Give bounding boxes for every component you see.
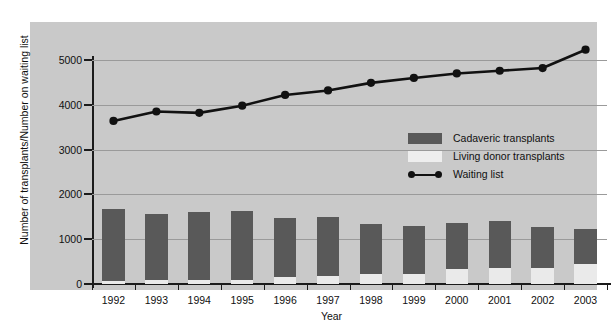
x-tick xyxy=(478,283,479,290)
waiting-list-point-1997 xyxy=(324,86,332,94)
y-tick xyxy=(84,283,92,285)
waiting-list-point-1993 xyxy=(152,107,160,115)
chart-legend: Cadaveric transplants Living donor trans… xyxy=(408,130,565,184)
x-tick-label-2000: 2000 xyxy=(445,294,468,306)
y-tick-label: 2000 xyxy=(59,188,82,200)
x-tick-label-1996: 1996 xyxy=(273,294,296,306)
y-tick-label: 1000 xyxy=(59,233,82,245)
y-axis-title: Number of transplants/Number on waiting … xyxy=(18,0,30,300)
x-tick xyxy=(521,283,522,290)
legend-marker-waiting-list xyxy=(408,169,442,180)
waiting-list-point-2003 xyxy=(581,46,589,54)
x-tick-label-2002: 2002 xyxy=(531,294,554,306)
x-tick-label-1995: 1995 xyxy=(231,294,254,306)
x-tick-label-1994: 1994 xyxy=(188,294,211,306)
chart-panel: 010002000300040005000 199219931994199519… xyxy=(30,22,597,290)
legend-label-living-donor: Living donor transplants xyxy=(453,150,565,162)
waiting-list-point-1998 xyxy=(367,79,375,87)
x-tick xyxy=(435,283,436,290)
waiting-list-point-1999 xyxy=(410,74,418,82)
x-tick xyxy=(178,283,179,290)
y-tick xyxy=(84,104,92,106)
y-tick xyxy=(84,193,92,195)
y-tick-label: 3000 xyxy=(59,144,82,156)
legend-swatch-cadaveric xyxy=(408,133,442,144)
x-tick-label-1999: 1999 xyxy=(402,294,425,306)
legend-item-cadaveric: Cadaveric transplants xyxy=(408,130,565,146)
y-tick-label: 5000 xyxy=(59,54,82,66)
legend-item-waiting-list: Waiting list xyxy=(408,166,565,182)
y-tick xyxy=(84,149,92,151)
waiting-list-point-1994 xyxy=(195,109,203,117)
waiting-list-point-2000 xyxy=(453,69,461,77)
y-tick xyxy=(84,59,92,61)
x-tick-label-1997: 1997 xyxy=(316,294,339,306)
x-tick-label-1992: 1992 xyxy=(102,294,125,306)
legend-swatch-living-donor xyxy=(408,151,442,162)
waiting-list-point-1996 xyxy=(281,91,289,99)
x-tick xyxy=(607,283,608,290)
x-tick-label-1993: 1993 xyxy=(145,294,168,306)
waiting-list-point-2001 xyxy=(496,67,504,75)
x-tick xyxy=(92,283,93,290)
x-tick xyxy=(264,283,265,290)
x-tick-label-2001: 2001 xyxy=(488,294,511,306)
x-tick-label-2003: 2003 xyxy=(574,294,597,306)
x-tick xyxy=(135,283,136,290)
legend-label-waiting-list: Waiting list xyxy=(453,168,503,180)
x-axis-title: Year xyxy=(30,310,615,322)
y-tick-label: 4000 xyxy=(59,99,82,111)
x-tick xyxy=(350,283,351,290)
waiting-list-point-1992 xyxy=(109,117,117,125)
x-tick-label-1998: 1998 xyxy=(359,294,382,306)
x-tick xyxy=(392,283,393,290)
legend-item-living-donor: Living donor transplants xyxy=(408,148,565,164)
y-tick-label: 0 xyxy=(76,278,82,290)
x-tick xyxy=(307,283,308,290)
waiting-list-polyline xyxy=(113,50,585,121)
y-tick xyxy=(84,238,92,240)
x-tick xyxy=(564,283,565,290)
x-tick xyxy=(221,283,222,290)
legend-label-cadaveric: Cadaveric transplants xyxy=(453,132,555,144)
waiting-list-point-1995 xyxy=(238,102,246,110)
waiting-list-point-2002 xyxy=(539,64,547,72)
